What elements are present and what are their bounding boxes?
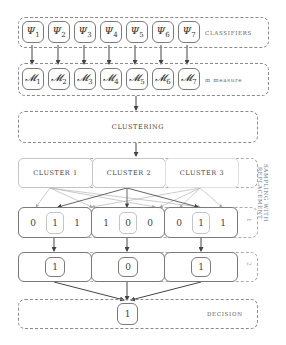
sample-group-1: 0 1 1 — [18, 207, 92, 238]
cluster-box-3: Cluster 3 — [165, 158, 239, 188]
measure-box: 𝓜4 — [100, 68, 122, 90]
vote-value: 0 — [118, 257, 138, 277]
vote-group-3: 1 — [164, 252, 238, 282]
clustering-label: Clustering — [112, 123, 164, 131]
votes-side-label: 2 — [246, 262, 253, 266]
sample-group-2: 1 0 0 — [91, 207, 165, 238]
sample-value: 0 — [141, 212, 159, 234]
sample-group-3: 0 1 1 — [164, 207, 238, 238]
sampling-label: Sampling with replacement — [257, 158, 269, 228]
sample-value: 0 — [170, 212, 188, 234]
measure-box: 𝓜6 — [152, 68, 174, 90]
measure-box: 𝓜2 — [48, 68, 70, 90]
classifier-box: Ψ4 — [100, 21, 122, 43]
clustering-box: Clustering — [18, 111, 258, 143]
classifier-box: Ψ3 — [74, 21, 96, 43]
cluster-box-2: Cluster 2 — [92, 158, 166, 188]
measures-label: m measure — [205, 77, 242, 83]
classifier-box: Ψ2 — [48, 21, 70, 43]
vote-group-2: 0 — [91, 252, 165, 282]
sample-value: 1 — [214, 212, 232, 234]
classifier-box: Ψ7 — [178, 21, 200, 43]
sample-value: 0 — [119, 212, 137, 234]
measure-box: 𝓜7 — [178, 68, 200, 90]
measures-row: 𝓜1 𝓜2 𝓜3 𝓜4 𝓜5 𝓜6 𝓜7 — [22, 68, 200, 90]
sample-value: 1 — [46, 212, 64, 234]
cluster-box-1: Cluster 1 — [18, 158, 93, 188]
classifier-box: Ψ6 — [152, 21, 174, 43]
vote-group-1: 1 — [18, 252, 92, 282]
classifiers-label: Classifiers — [205, 30, 252, 36]
samples-side-label: 1 — [246, 218, 253, 222]
measure-box: 𝓜5 — [126, 68, 148, 90]
classifier-box: Ψ5 — [126, 21, 148, 43]
vote-value: 1 — [45, 257, 65, 277]
classifier-box: Ψ1 — [22, 21, 44, 43]
sample-value: 1 — [97, 212, 115, 234]
measure-box: 𝓜1 — [22, 68, 44, 90]
classifiers-row: Ψ1 Ψ2 Ψ3 Ψ4 Ψ5 Ψ6 Ψ7 — [22, 21, 200, 43]
vote-value: 1 — [191, 257, 211, 277]
decision-label: Decision — [207, 311, 243, 317]
sample-value: 1 — [192, 212, 210, 234]
measure-box: 𝓜3 — [74, 68, 96, 90]
decision-value: 1 — [117, 303, 138, 325]
sample-value: 1 — [68, 212, 86, 234]
sample-value: 0 — [24, 212, 42, 234]
